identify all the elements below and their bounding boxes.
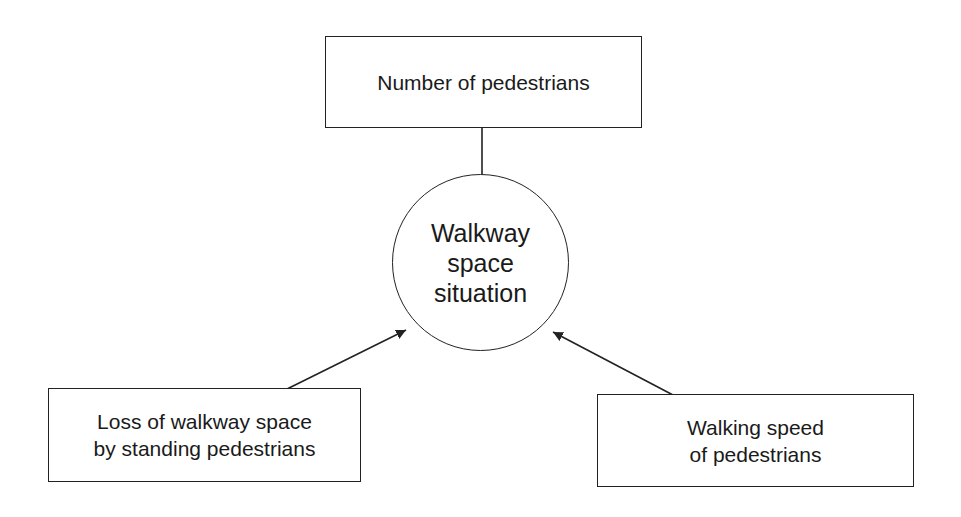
- node-label-line-1: Walkway: [431, 218, 530, 248]
- node-label-line-2: of pedestrians: [690, 441, 822, 468]
- node-label-line-2: by standing pedestrians: [94, 435, 316, 462]
- arrow-bottom-left-to-center: [285, 330, 406, 390]
- node-loss-of-walkway-space: Loss of walkway space by standing pedest…: [48, 388, 361, 482]
- node-label: Number of pedestrians: [377, 69, 589, 96]
- node-label-line-1: Walking speed: [687, 414, 824, 441]
- node-number-of-pedestrians: Number of pedestrians: [325, 36, 642, 128]
- node-walking-speed: Walking speed of pedestrians: [597, 394, 914, 487]
- node-walkway-space-situation: Walkway space situation: [392, 174, 569, 351]
- node-label-line-1: Loss of walkway space: [97, 408, 312, 435]
- node-label-line-2: space: [447, 248, 514, 278]
- arrow-bottom-right-to-center: [553, 332, 673, 395]
- node-label-line-3: situation: [434, 278, 527, 308]
